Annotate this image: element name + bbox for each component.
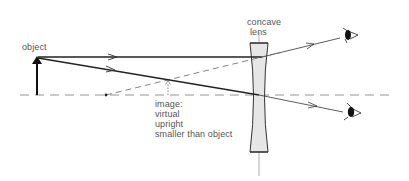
- eye-icon-lower: [344, 103, 361, 120]
- lens-label-line2: lens: [250, 27, 267, 37]
- ray-center-exit: [259, 95, 343, 112]
- image-label-smaller: smaller than object: [155, 129, 232, 139]
- focal-point-dot: [105, 94, 108, 97]
- ray-virtual-extension: [106, 57, 262, 95]
- concave-lens-ray-diagram: [0, 0, 409, 181]
- image-label-title: image:: [155, 99, 183, 109]
- object-arrow-icon: [32, 56, 42, 95]
- eye-icon-upper: [343, 28, 358, 43]
- image-label-upright: upright: [155, 119, 183, 129]
- lens-label-line1: concave: [247, 17, 281, 27]
- object-label: object: [22, 42, 47, 52]
- virtual-image-arrow: [166, 81, 171, 96]
- image-label-virtual: virtual: [155, 109, 180, 119]
- ray-center: [38, 58, 259, 95]
